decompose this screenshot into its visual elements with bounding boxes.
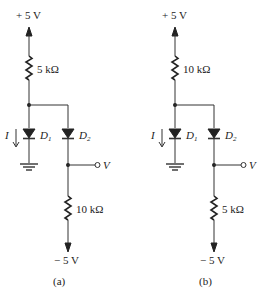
current-label: I	[4, 129, 10, 141]
output-terminal-icon	[95, 163, 100, 168]
diode-d1-label: D1	[39, 129, 51, 143]
resistor-top-icon	[172, 56, 178, 80]
ground-icon	[166, 164, 184, 170]
output-label: V	[249, 159, 257, 171]
supply-arrow-down-icon	[65, 243, 71, 252]
resistor-top-icon	[26, 56, 32, 80]
circuit-figure: + 5 V 5 kΩ D1 D2 I V	[0, 0, 271, 295]
diode-d2-icon	[62, 129, 74, 138]
resistor-bottom-icon	[211, 196, 217, 220]
supply-bottom-label: − 5 V	[54, 254, 79, 266]
ground-icon	[20, 164, 38, 170]
current-label: I	[150, 129, 156, 141]
diode-d1-label: D1	[185, 129, 197, 143]
supply-top-label: + 5 V	[16, 9, 41, 21]
caption-b: (b)	[199, 275, 212, 288]
resistor-bottom-label: 10 kΩ	[76, 203, 103, 215]
diode-d2-icon	[208, 129, 220, 138]
supply-arrow-down-icon	[211, 243, 217, 252]
diode-d2-label: D2	[224, 129, 237, 143]
circuit-b: + 5 V 10 kΩ D1 D2 I V 5 kΩ	[150, 9, 257, 288]
supply-bottom-label: − 5 V	[200, 254, 225, 266]
diode-d1-icon	[169, 129, 181, 138]
diode-d2-label: D2	[78, 129, 91, 143]
output-terminal-icon	[241, 163, 246, 168]
caption-a: (a)	[53, 275, 66, 288]
resistor-bottom-icon	[65, 196, 71, 220]
diode-d1-icon	[23, 129, 35, 138]
resistor-top-label: 5 kΩ	[37, 63, 59, 75]
output-label: V	[103, 159, 111, 171]
resistor-bottom-label: 5 kΩ	[222, 203, 244, 215]
circuit-a: + 5 V 5 kΩ D1 D2 I V	[4, 9, 111, 288]
resistor-top-label: 10 kΩ	[183, 63, 210, 75]
supply-top-label: + 5 V	[162, 9, 187, 21]
